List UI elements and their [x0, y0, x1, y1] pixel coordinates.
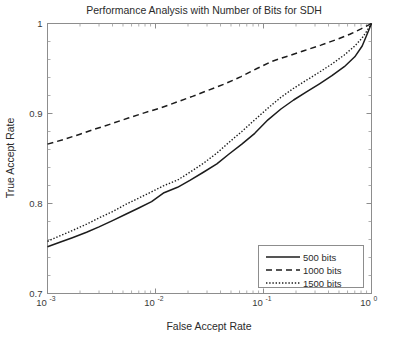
legend-label: 1500 bits: [303, 278, 342, 289]
chart-title: Performance Analysis with Number of Bits…: [86, 4, 322, 16]
svg-text:10: 10: [144, 297, 155, 308]
svg-text:-3: -3: [50, 295, 56, 302]
y-axis-label: True Accept Rate: [4, 117, 16, 198]
legend-label: 500 bits: [303, 252, 337, 263]
chart-legend: 500 bits1000 bits1500 bits: [259, 246, 364, 289]
svg-text:-1: -1: [266, 295, 272, 302]
svg-text:10: 10: [360, 297, 371, 308]
y-tick-label: 0.9: [29, 108, 42, 119]
svg-text:0: 0: [374, 295, 378, 302]
svg-text:-2: -2: [158, 295, 164, 302]
roc-chart: Performance Analysis with Number of Bits…: [0, 0, 395, 338]
svg-text:10: 10: [252, 297, 263, 308]
y-tick-label: 0.7: [29, 288, 42, 299]
figure-canvas: Performance Analysis with Number of Bits…: [0, 0, 395, 338]
y-tick-label: 0.8: [29, 198, 42, 209]
legend-label: 1000 bits: [303, 265, 342, 276]
y-tick-label: 1: [37, 18, 42, 29]
x-axis-label: False Accept Rate: [166, 320, 251, 332]
